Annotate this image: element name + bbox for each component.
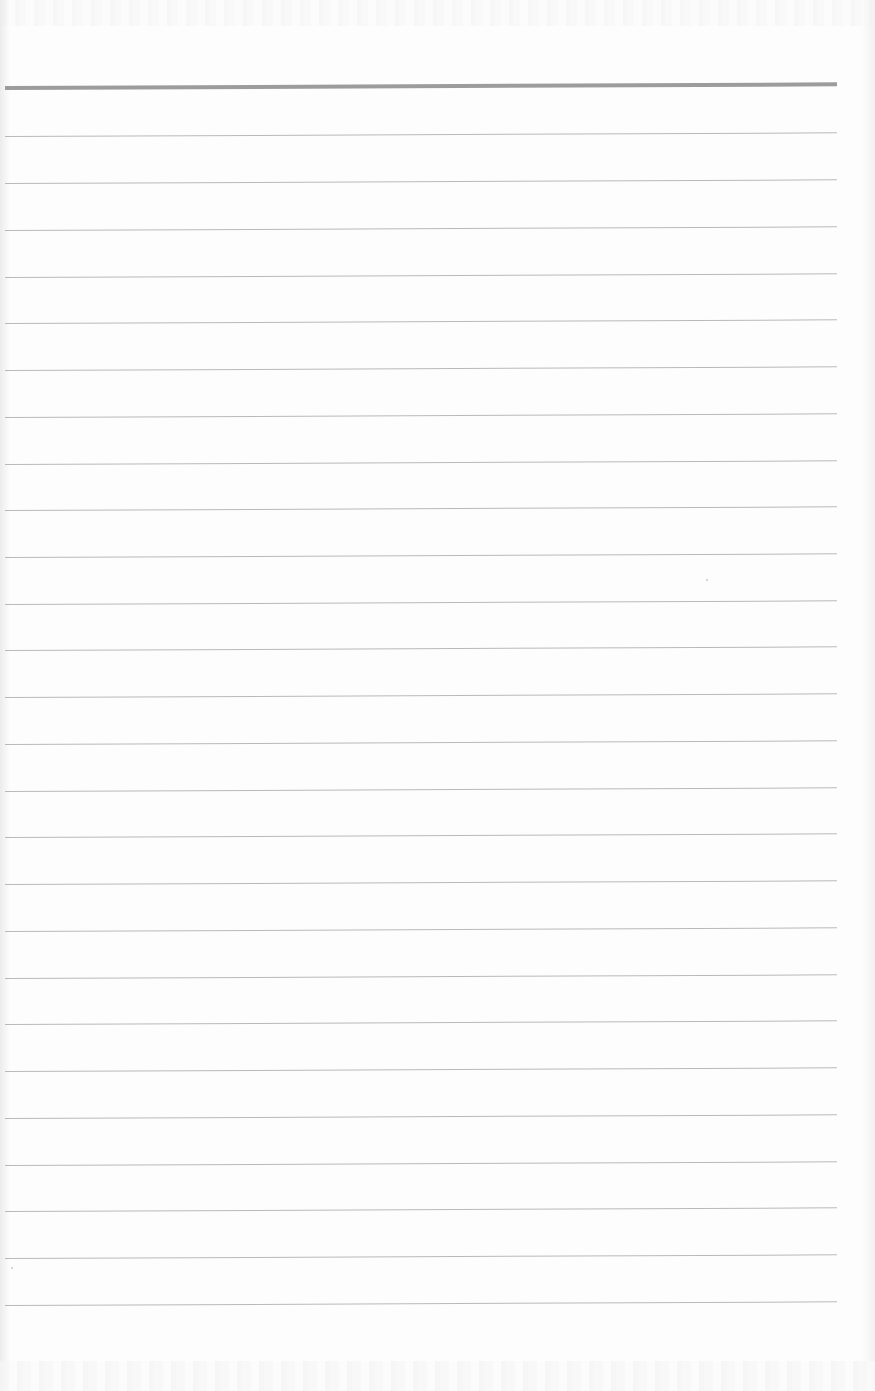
ruled-line <box>5 927 837 932</box>
ruled-line <box>5 132 837 137</box>
ruled-line <box>5 1020 837 1025</box>
lined-paper-page <box>0 0 875 1391</box>
top-bleed-through-texture <box>0 0 875 26</box>
ruled-line <box>5 460 837 465</box>
paper-speck <box>11 1267 13 1269</box>
ruled-line <box>5 319 837 324</box>
ruled-line <box>5 1207 837 1212</box>
ruled-line <box>5 880 837 885</box>
ruled-line <box>5 1067 837 1072</box>
ruled-line <box>5 646 837 651</box>
ruled-line <box>5 553 837 558</box>
ruled-line <box>5 833 837 838</box>
ruled-line <box>5 787 837 792</box>
ruled-line <box>5 1254 837 1259</box>
left-edge-shadow <box>0 0 10 1391</box>
header-rule-line <box>5 82 837 90</box>
ruled-line <box>5 273 837 278</box>
ruled-line <box>5 179 837 184</box>
bottom-bleed-through-texture <box>0 1361 875 1391</box>
ruled-line <box>5 740 837 745</box>
ruled-line <box>5 1301 837 1306</box>
right-edge-shadow <box>861 0 875 1391</box>
ruled-line <box>5 600 837 605</box>
ruled-line <box>5 693 837 698</box>
ruled-line <box>5 366 837 371</box>
ruled-line <box>5 1161 837 1166</box>
ruled-line <box>5 506 837 511</box>
ruled-line <box>5 974 837 979</box>
ruled-line <box>5 413 837 418</box>
paper-speck <box>706 579 708 581</box>
ruled-line <box>5 1114 837 1119</box>
ruled-line <box>5 226 837 231</box>
